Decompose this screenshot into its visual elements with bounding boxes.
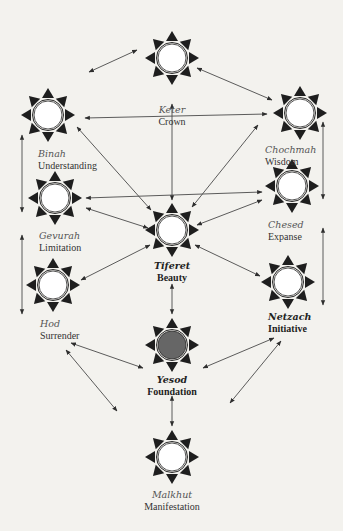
hebrew-name: Binah [38, 148, 97, 160]
english-name: Expanse [268, 231, 304, 243]
english-name: Surrender [40, 330, 79, 342]
sun-icon-keter [145, 31, 199, 85]
sun-icon-chochmah [273, 86, 327, 140]
hebrew-name: Tiferet [142, 260, 202, 272]
label-tiferet: Tiferet Beauty [142, 260, 202, 284]
english-name: Foundation [132, 386, 212, 398]
english-name: Wisdom [265, 156, 316, 168]
label-yesod: Yesod Foundation [132, 374, 212, 398]
arrow-netzach-malkhut [230, 341, 281, 403]
hebrew-name: Chochmah [265, 144, 316, 156]
label-gevurah: Gevurah Limitation [39, 230, 81, 254]
arrow-chesed-tiferet [197, 200, 262, 225]
sun-icon-gevurah [28, 171, 82, 225]
sun-icon-binah [21, 88, 75, 142]
sun-icon-tiferet [145, 203, 199, 257]
arrow-hod-malkhut [66, 350, 117, 411]
english-name: Understanding [38, 160, 97, 172]
english-name: Beauty [142, 272, 202, 284]
arrow-tiferet-hod [81, 245, 150, 280]
hebrew-name: Keter [142, 104, 202, 116]
sun-icon-netzach [261, 255, 315, 309]
sun-icon-malkhut [145, 430, 199, 484]
english-name: Crown [142, 116, 202, 128]
arrow-netzach-yesod [203, 338, 274, 368]
english-name: Initiative [268, 323, 311, 335]
label-binah: Binah Understanding [38, 148, 97, 172]
sun-icon-yesod [145, 318, 199, 372]
sun-icon-hod [26, 258, 80, 312]
hebrew-name: Chesed [268, 219, 304, 231]
hebrew-name: Malkhut [127, 489, 217, 501]
label-keter: Keter Crown [142, 104, 202, 128]
hebrew-name: Yesod [132, 374, 212, 386]
arrow-gevurah-tiferet [86, 208, 148, 228]
hebrew-name: Gevurah [39, 230, 81, 242]
english-name: Limitation [39, 242, 81, 254]
sefirot-nodes [21, 31, 327, 484]
label-chochmah: Chochmah Wisdom [265, 144, 316, 168]
hebrew-name: Hod [40, 318, 79, 330]
hebrew-name: Netzach [268, 311, 311, 323]
label-malkhut: Malkhut Manifestation [127, 489, 217, 513]
arrow-hod-yesod [71, 343, 143, 368]
arrow-gevurah-chesed [86, 192, 262, 198]
arrow-keter-chochmah [197, 68, 272, 100]
arrow-chochmah-tiferet [192, 125, 258, 207]
arrow-keter-binah [89, 50, 137, 72]
label-netzach: Netzach Initiative [268, 311, 311, 335]
label-chesed: Chesed Expanse [268, 219, 304, 243]
english-name: Manifestation [127, 501, 217, 513]
arrow-tiferet-netzach [195, 245, 260, 276]
label-hod: Hod Surrender [40, 318, 79, 342]
